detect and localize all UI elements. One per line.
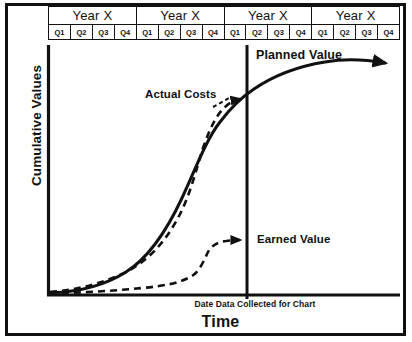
series-label-actual-costs: Actual Costs [145,88,217,100]
calendar-quarter-cell: Q2 [70,25,92,40]
calendar-year-cell-1: Year X [49,7,137,25]
series-label-planned-value: Planned Value [256,48,342,62]
y-axis-title: Cumulative Values [29,46,44,206]
calendar-quarter-cell: Q3 [268,25,290,40]
calendar-quarter-cell: Q4 [114,25,136,40]
series-label-earned-value: Earned Value [257,233,330,245]
calendar-quarter-cell: Q3 [180,25,202,40]
calendar-quarter-row: Q1 Q2 Q3 Q4 Q1 Q2 Q3 Q4 Q1 Q2 Q3 Q4 Q1 Q… [49,25,400,40]
calendar-year-cell-2: Year X [136,7,224,25]
chart-frame [5,3,406,336]
calendar-quarter-cell: Q1 [224,25,246,40]
calendar-quarter-cell: Q2 [334,25,356,40]
calendar-quarter-cell: Q3 [92,25,114,40]
x-axis-title: Time [48,313,393,331]
calendar-quarter-cell: Q4 [290,25,312,40]
data-date-caption: Date Data Collected for Chart [100,299,410,309]
calendar-quarter-cell: Q2 [246,25,268,40]
calendar-year-cell-3: Year X [224,7,312,25]
calendar-quarter-cell: Q1 [136,25,158,40]
calendar-quarter-cell: Q2 [158,25,180,40]
calendar-quarter-cell: Q4 [378,25,400,40]
calendar-quarter-cell: Q4 [202,25,224,40]
time-axis-calendar: Year X Year X Year X Year X Q1 Q2 Q3 Q4 … [48,6,400,40]
calendar-quarter-cell: Q1 [49,25,71,40]
calendar-quarter-cell: Q3 [356,25,378,40]
calendar-quarter-cell: Q1 [312,25,334,40]
calendar-year-cell-4: Year X [312,7,400,25]
calendar-year-row: Year X Year X Year X Year X [49,7,400,25]
chart-root: Year X Year X Year X Year X Q1 Q2 Q3 Q4 … [0,0,412,342]
